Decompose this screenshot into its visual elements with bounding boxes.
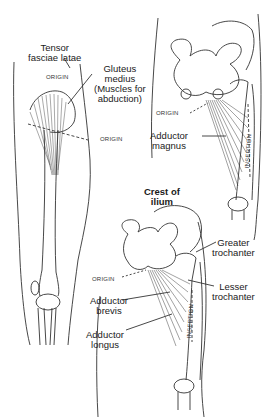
lesser-trochanter-label: Lesser trochanter <box>212 282 255 302</box>
origin-label: ORIGIN <box>156 110 179 116</box>
tensor-fasciae-latae-label: Tensor fasciae latae <box>28 43 81 63</box>
adductor-brevis-label: Adductor brevis <box>90 296 128 316</box>
adductor-magnus-label: Adductor magnus <box>150 131 188 151</box>
crest-of-ilium-label: Crest of ilium <box>144 187 180 207</box>
origin-label: ORIGIN <box>92 276 115 282</box>
adductor-longus-label: Adductor longus <box>86 330 124 350</box>
anatomy-diagram: Tensor fasciae latae ORIGIN Gluteus medi… <box>0 0 273 417</box>
origin-label: ORIGIN <box>100 136 123 142</box>
origin-label: ORIGIN <box>46 74 69 80</box>
greater-trochanter-label: Greater trochanter <box>212 238 255 258</box>
gluteus-medius-label: Gluteus medius (Muscles for abduction) <box>94 64 146 104</box>
